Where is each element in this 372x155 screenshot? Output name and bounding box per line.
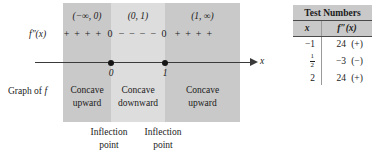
cell-x-row1: −1 [293,37,322,52]
interval-label-1: (−∞, 0) [63,11,111,21]
table-title-row: Test Numbers [293,5,372,21]
inflection-2-line2: point [136,139,190,152]
test-numbers-table: Test Numbers x f″(x) −1 24(+) 1 2 −3(−) [293,5,372,93]
table-header-row: x f″(x) [293,21,372,37]
concavity-3-line1: Concave [165,84,240,97]
cell-x-row3: 2 [293,71,322,85]
sign-row-interval-2: − − − − [117,28,159,39]
inflection-point-note-2: Inflection point [136,126,190,151]
sign-row3: (+) [346,73,368,83]
value-row3: 24 [328,73,346,83]
tick-dot-1 [162,60,168,66]
concavity-label-2: Concave downward [111,84,165,109]
sign-zero-at-0: 0 [103,28,117,39]
value-row1: 24 [328,39,346,49]
inflection-point-note-1: Inflection point [82,126,136,151]
graph-of-f-label: Graph of f [8,86,47,96]
fraction-one-half: 1 2 [310,53,316,69]
value-row2: −3 [328,56,346,66]
graph-of-f-text: Graph of [8,86,44,96]
inflection-1-line2: point [82,139,136,152]
cell-value-row3: 24(+) [322,71,372,85]
inflection-1-line1: Inflection [82,126,136,139]
table-row: −1 24(+) [293,37,372,52]
axis-x-label: x [260,56,264,66]
graph-of-f-symbol: f [44,86,47,96]
concavity-1-line1: Concave [63,84,111,97]
interval-label-2: (0, 1) [111,11,165,21]
concavity-1-line2: upward [63,97,111,110]
tick-label-1: 1 [157,68,173,78]
number-line [35,62,253,63]
table-row: 1 2 −3(−) [293,51,372,71]
concavity-label-3: Concave upward [165,84,240,109]
cell-value-row2: −3(−) [322,51,372,71]
concavity-sign-chart: (−∞, 0) (0, 1) (1, ∞) f″(x) + + + + 0 − … [0,0,262,155]
concavity-3-line2: upward [165,97,240,110]
sign-row1: (+) [346,39,368,49]
concavity-label-1: Concave upward [63,84,111,109]
concavity-2-line1: Concave [111,84,165,97]
inflection-2-line1: Inflection [136,126,190,139]
second-derivative-label: f″(x) [29,29,46,39]
cell-value-row1: 24(+) [322,37,372,52]
fraction-denominator: 2 [310,62,316,70]
sign-row2: (−) [346,56,368,66]
column-header-fpp: f″(x) [322,21,372,37]
cell-x-row2: 1 2 [293,51,322,71]
test-numbers-grid: Test Numbers x f″(x) −1 24(+) 1 2 −3(−) [293,5,372,85]
tick-dot-0 [108,60,114,66]
tick-label-0: 0 [103,68,119,78]
table-row: 2 24(+) [293,71,372,85]
concavity-2-line2: downward [111,97,165,110]
sign-row-interval-3: + + + + [171,28,217,39]
sign-row-interval-1: + + + + [61,28,105,39]
table-title: Test Numbers [293,5,372,21]
column-header-x: x [293,21,322,37]
sign-zero-at-1: 0 [157,28,171,39]
axis-arrow-icon [250,58,258,66]
interval-label-3: (1, ∞) [165,11,240,21]
